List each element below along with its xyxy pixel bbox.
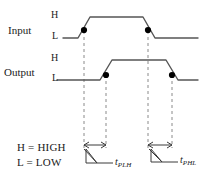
- tphl-subscript: PHL: [183, 159, 197, 167]
- tplh-subscript: PLH: [118, 161, 132, 169]
- output-signal-label: Output: [4, 67, 35, 78]
- legend-low-definition: L = LOW: [17, 157, 61, 168]
- output-high-level-label: H: [51, 53, 58, 63]
- tplh-label: tPLH: [115, 157, 131, 169]
- input-rising-edge-marker: [81, 27, 87, 33]
- output-falling-edge-marker: [169, 72, 175, 78]
- tphl-label: tPHL: [180, 155, 196, 167]
- reference-lines-group: [84, 31, 172, 148]
- tphl-leader-line: [149, 149, 178, 162]
- timing-diagram-figure: Input Output H L H L H = HIGH L = LOW tP…: [0, 0, 211, 178]
- input-high-level-label: H: [51, 10, 58, 20]
- output-rising-edge-marker: [103, 72, 109, 78]
- output-low-level-label: L: [52, 73, 58, 83]
- legend-high-definition: H = HIGH: [17, 142, 66, 153]
- tplh-leader-line: [84, 149, 113, 163]
- tphl-measure-group: [148, 142, 178, 162]
- input-falling-edge-marker: [145, 27, 151, 33]
- input-signal-label: Input: [8, 25, 31, 36]
- tplh-measure-group: [84, 142, 113, 163]
- output-waveform: [57, 60, 198, 80]
- input-low-level-label: L: [52, 31, 58, 41]
